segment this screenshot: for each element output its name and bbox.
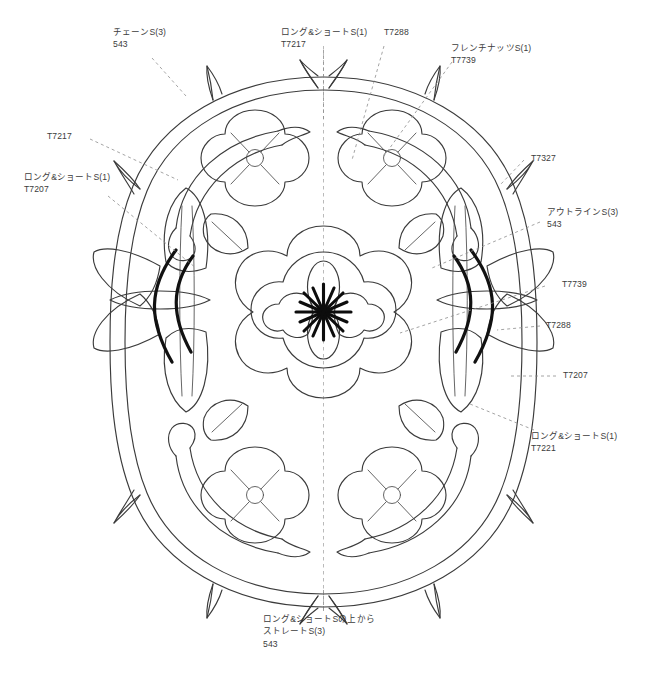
- label-top-center-left-line-1: ロング&ショートS(1): [281, 26, 367, 38]
- label-right-3-line-1: T7739: [562, 278, 587, 290]
- label-left-upper: T7217: [47, 130, 72, 142]
- label-top-center-left: ロング&ショートS(1) T7217: [281, 26, 367, 51]
- leader-right-bottom: [470, 404, 534, 430]
- quatrefoil-bottom-left: [201, 447, 309, 543]
- label-top-left-line-2: 543: [113, 38, 166, 50]
- label-right-2-line-2: 543: [547, 218, 618, 230]
- label-left-upper-line-1: T7217: [47, 130, 72, 142]
- quatrefoil-top-right: [338, 110, 446, 206]
- label-top-left-line-1: チェーンS(3): [113, 26, 166, 38]
- label-top-right: フレンチナッツS(1) T7739: [451, 42, 531, 67]
- leader-top-left: [152, 58, 186, 96]
- label-top-left: チェーンS(3) 543: [113, 26, 166, 51]
- label-right-4-line-1: T7288: [546, 319, 571, 331]
- label-right-2: アウトラインS(3) 543: [547, 206, 618, 231]
- label-right-bottom: ロング&ショートS(1) T7221: [531, 430, 617, 455]
- center-starburst-icon: [296, 284, 351, 340]
- label-right-bottom-line-2: T7221: [531, 442, 617, 454]
- label-top-right-line-1: フレンチナッツS(1): [451, 42, 531, 54]
- label-left-lower-line-2: T7207: [24, 183, 110, 195]
- label-right-1: T7327: [531, 152, 556, 164]
- label-top-center-line-1: T7288: [384, 26, 409, 38]
- label-right-1-line-1: T7327: [531, 152, 556, 164]
- leader-right-3: [400, 286, 545, 333]
- label-right-bottom-line-1: ロング&ショートS(1): [531, 430, 617, 442]
- label-top-center: T7288: [384, 26, 409, 38]
- label-right-3: T7739: [562, 278, 587, 290]
- label-bottom-center: ロング&ショートSの上から ストレートS(3) 543: [263, 613, 375, 650]
- quatrefoil-top-left: [201, 110, 309, 206]
- quatrefoil-bottom-right: [338, 447, 446, 543]
- label-bottom-center-line-3: 543: [263, 638, 375, 650]
- label-bottom-center-line-2: ストレートS(3): [263, 625, 375, 637]
- label-bottom-center-line-1: ロング&ショートSの上から: [263, 613, 375, 625]
- label-right-5-line-1: T7207: [563, 369, 588, 381]
- label-left-lower-line-1: ロング&ショートS(1): [24, 171, 110, 183]
- label-top-center-left-line-2: T7217: [281, 38, 367, 50]
- leader-right-2: [432, 222, 540, 268]
- leader-top-center: [352, 46, 384, 160]
- pattern-artwork: [0, 0, 647, 684]
- label-right-2-line-1: アウトラインS(3): [547, 206, 618, 218]
- label-left-lower: ロング&ショートS(1) T7207: [24, 171, 110, 196]
- label-right-5: T7207: [563, 369, 588, 381]
- leader-left-lower: [108, 196, 196, 268]
- label-right-4: T7288: [546, 319, 571, 331]
- label-top-right-line-2: T7739: [451, 54, 531, 66]
- leader-right-4: [497, 326, 540, 330]
- diagram-page: チェーンS(3) 543 ロング&ショートS(1) T7217 T7288 フレ…: [0, 0, 647, 684]
